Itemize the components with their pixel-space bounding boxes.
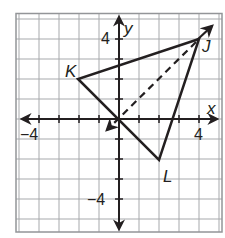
- point-label-l: L: [163, 167, 172, 186]
- y-axis-label: y: [123, 19, 134, 38]
- coordinate-plane: y x 4 −4 −4 4 J K L: [0, 0, 225, 238]
- point-label-j: J: [201, 37, 211, 56]
- x-axis-label: x: [206, 99, 216, 118]
- point-label-k: K: [65, 62, 77, 81]
- tick-label-y-neg-4: −4: [87, 191, 105, 208]
- tick-label-x-neg-4: −4: [20, 126, 38, 143]
- tick-label-x-pos-4: 4: [194, 126, 203, 143]
- tick-label-y-pos-4: 4: [101, 30, 110, 47]
